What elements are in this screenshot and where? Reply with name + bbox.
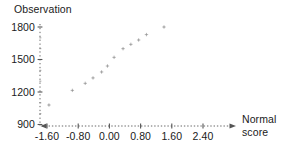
y-tick-label-0: 900 xyxy=(1,118,35,130)
y-tick-label-3: 1800 xyxy=(1,21,35,33)
data-point xyxy=(91,76,94,79)
tick-marks-layer xyxy=(38,27,203,129)
x-tick-label-5: 2.40 xyxy=(183,130,223,142)
data-point xyxy=(145,33,148,36)
data-point xyxy=(129,43,132,46)
data-point xyxy=(112,56,115,59)
data-point xyxy=(121,47,124,50)
y-tick-label-1: 1200 xyxy=(1,86,35,98)
data-points-layer xyxy=(47,25,165,106)
data-point xyxy=(100,70,103,73)
data-point xyxy=(137,38,140,41)
x-axis-arrowhead xyxy=(230,123,237,128)
chart-screenshot: Observation Normalscore 900120015001800 … xyxy=(0,0,294,154)
data-point xyxy=(162,25,165,28)
y-tick-label-2: 1500 xyxy=(1,53,35,65)
data-point xyxy=(47,103,50,106)
data-point xyxy=(71,89,74,92)
data-point xyxy=(84,82,87,85)
data-point xyxy=(106,64,109,67)
